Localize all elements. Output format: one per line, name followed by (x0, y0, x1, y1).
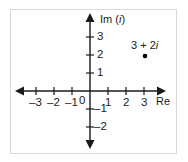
origin-tick-label: 0 (79, 95, 85, 106)
y-tick-label-3: 3 (97, 31, 103, 42)
imaginary-axis-label-text: Im ( (100, 13, 119, 25)
imaginary-axis-down-arrow (86, 140, 95, 149)
data-point-3-plus-2i (143, 54, 148, 59)
point-imaginary-unit: i (156, 39, 158, 51)
x-tick-label--3: –3 (29, 97, 42, 108)
y-tick-label-2: 2 (97, 49, 103, 60)
axes-canvas (0, 0, 188, 162)
x-tick-label--2: –2 (47, 97, 60, 108)
imaginary-axis-label-close: ) (121, 13, 125, 25)
point-annotation-3-plus-2i: 3 + 2i (131, 40, 158, 51)
real-axis-label: Re (156, 96, 170, 107)
y-tick-label-1: 1 (97, 67, 103, 78)
x-tick-label-3: 3 (141, 97, 147, 108)
y-tick-label--1: –1 (94, 103, 107, 114)
real-axis-left-arrow (15, 87, 24, 96)
point-real-part: 3 (131, 39, 137, 51)
imaginary-axis-up-arrow (86, 13, 95, 22)
complex-plane-figure: Im (i) Re 0 –3 –2 –1 1 2 3 3 2 1 –1 –2 3… (0, 0, 188, 162)
y-tick-label--2: –2 (94, 121, 107, 132)
point-operator: + (140, 39, 146, 51)
imaginary-axis-label: Im (i) (100, 14, 125, 25)
x-tick-label-2: 2 (123, 97, 129, 108)
x-tick-label--1: –1 (65, 97, 78, 108)
